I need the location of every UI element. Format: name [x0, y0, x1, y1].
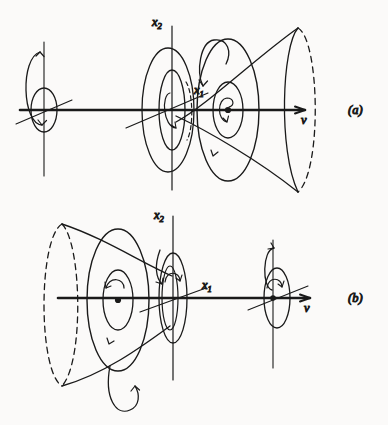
v-label-a: v	[301, 113, 307, 127]
core-center-dot-right-b	[270, 295, 276, 301]
panel-label-a: (a)	[348, 103, 363, 117]
panel-label-b: (b)	[348, 291, 363, 305]
core-center-dot-b	[115, 297, 121, 303]
figure-background	[0, 0, 388, 425]
v-label-b: v	[304, 301, 310, 315]
vortex-ring-figure: x2 x1 v (a)	[0, 0, 388, 425]
core-center-dot-a	[225, 107, 231, 113]
